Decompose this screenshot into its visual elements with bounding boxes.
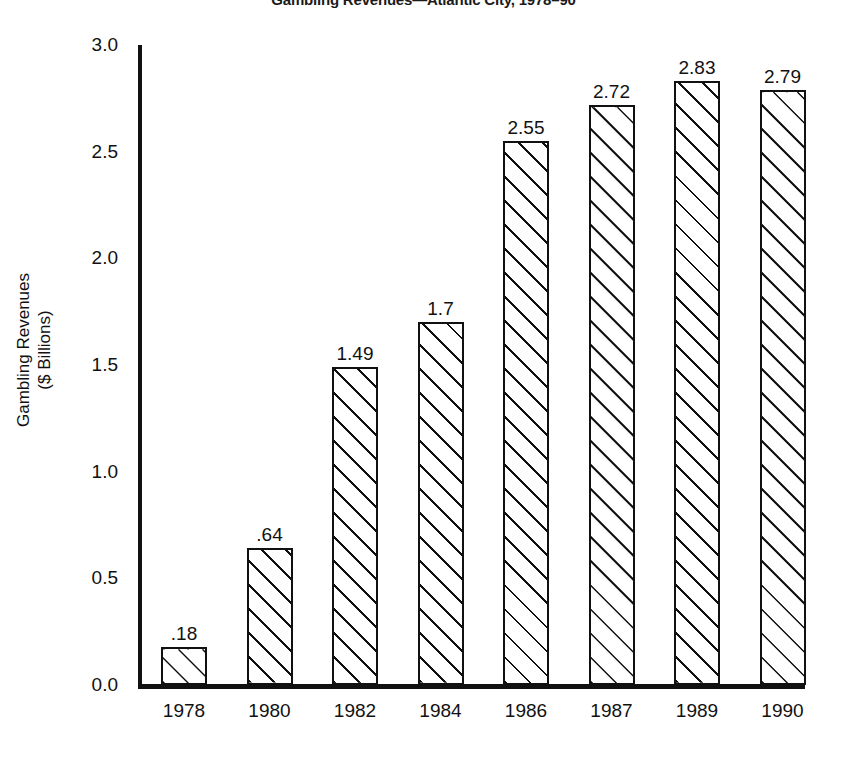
bar-value-label: 2.55 xyxy=(508,118,545,137)
bar-group: 1.49 xyxy=(332,333,378,685)
y-axis-line xyxy=(138,45,142,685)
bar-group: .64 xyxy=(247,514,293,685)
x-axis-tick-label: 1984 xyxy=(419,700,461,722)
x-axis-tick-label: 1990 xyxy=(761,700,803,722)
bar-group: 2.55 xyxy=(503,107,549,685)
bar-value-label: 2.83 xyxy=(679,58,716,77)
y-axis-tick-label: 1.0 xyxy=(92,461,118,483)
y-axis-tick-label: 0.0 xyxy=(92,674,118,696)
bar-value-label: 1.49 xyxy=(337,344,374,363)
bar-group: 2.79 xyxy=(760,56,806,685)
bar[interactable] xyxy=(589,105,635,685)
bar-value-label: .18 xyxy=(171,624,197,643)
bar[interactable] xyxy=(247,548,293,685)
bar[interactable] xyxy=(418,322,464,685)
bar[interactable] xyxy=(161,647,207,685)
x-axis-tick-label: 1980 xyxy=(248,700,290,722)
bar[interactable] xyxy=(503,141,549,685)
bar-chart: Gambling Revenues—Atlantic City, 1978–90… xyxy=(0,0,847,765)
bar[interactable] xyxy=(674,81,720,685)
bar-group: 2.83 xyxy=(674,47,720,685)
bar[interactable] xyxy=(760,90,806,685)
x-axis-tick-label: 1982 xyxy=(334,700,376,722)
x-axis-tick-label: 1987 xyxy=(590,700,632,722)
y-axis-tick-labels: 0.00.51.01.52.02.53.0 xyxy=(0,0,130,765)
bar[interactable] xyxy=(332,367,378,685)
x-axis-tick-label: 1989 xyxy=(676,700,718,722)
y-axis-tick-label: 3.0 xyxy=(92,34,118,56)
bar-group: .18 xyxy=(161,613,207,685)
x-axis-tick-label: 1986 xyxy=(505,700,547,722)
bar-value-label: 2.72 xyxy=(593,82,630,101)
bar-value-label: 1.7 xyxy=(427,299,453,318)
bar-value-label: .64 xyxy=(256,525,282,544)
bar-group: 1.7 xyxy=(418,288,464,685)
bar-value-label: 2.79 xyxy=(764,67,801,86)
y-axis-tick-label: 1.5 xyxy=(92,354,118,376)
x-axis-tick-label: 1978 xyxy=(163,700,205,722)
y-axis-tick-label: 0.5 xyxy=(92,567,118,589)
y-axis-tick-label: 2.5 xyxy=(92,141,118,163)
plot-area: .18.641.491.72.552.722.832.79 xyxy=(138,45,805,685)
bar-group: 2.72 xyxy=(589,71,635,685)
y-axis-tick-label: 2.0 xyxy=(92,247,118,269)
